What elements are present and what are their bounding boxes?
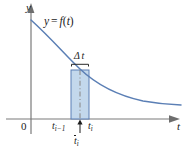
t-axis-label: t bbox=[177, 121, 180, 132]
delta-t-label: Δt bbox=[74, 51, 84, 61]
figure-canvas bbox=[0, 0, 188, 158]
function-curve-label: y=f(t) bbox=[44, 16, 74, 28]
tick-mid-subscript: i bbox=[77, 140, 79, 148]
fn-label-eq: = bbox=[51, 15, 58, 27]
origin-label: 0 bbox=[21, 121, 27, 132]
delta-var: t bbox=[81, 50, 84, 61]
tick-right-subscript: i bbox=[91, 125, 93, 133]
function-curve bbox=[31, 20, 181, 105]
midpoint-arrow-marker bbox=[77, 120, 82, 134]
riemann-rectangle-group bbox=[71, 70, 89, 119]
tick-left-subscript: i−1 bbox=[55, 125, 65, 133]
axes-group bbox=[6, 3, 180, 134]
riemann-rectangle-figure: y t 0 y=f(t) Δt ti−1 ti ti bbox=[0, 0, 188, 158]
fn-label-y: y bbox=[44, 15, 49, 27]
tick-mid-base: t bbox=[74, 136, 77, 146]
fn-label-close: ) bbox=[70, 15, 74, 27]
x-tick-label-left: ti−1 bbox=[52, 121, 65, 133]
x-tick-label-midpoint: ti bbox=[74, 136, 79, 148]
delta-symbol: Δ bbox=[74, 50, 80, 61]
delta-t-brace bbox=[72, 64, 89, 66]
y-axis-label: y bbox=[26, 2, 31, 13]
x-tick-label-right: ti bbox=[88, 121, 93, 133]
